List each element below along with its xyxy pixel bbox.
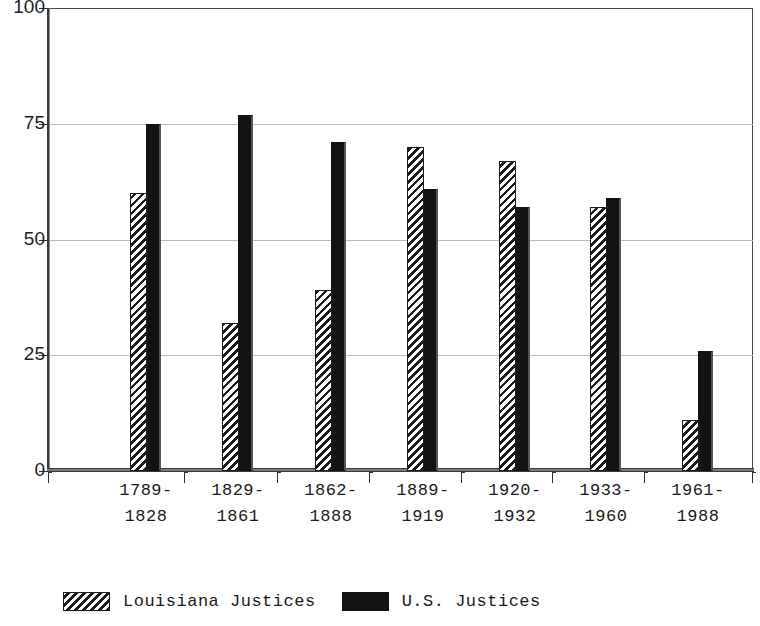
x-axis-tick [48,472,49,483]
x-axis-tick-label-line: 1888 [286,504,376,530]
chart-legend: Louisiana JusticesU.S. Justices [63,592,541,611]
x-axis-tick-label-line: 1889- [378,478,468,504]
hatch-swatch [63,592,110,611]
x-axis-tick-label: 1829-1861 [193,478,283,530]
x-axis-tick-label-line: 1862- [286,478,376,504]
bar-us-justices [331,142,346,471]
y-axis-tick-label: 50 [24,228,45,250]
bar-us-justices [423,189,438,471]
bar-louisiana-justices [315,290,332,471]
y-axis-tick-label: 100 [13,0,45,18]
x-axis-tick-label-line: 1919 [378,504,468,530]
bar-louisiana-justices [130,193,147,471]
bar-louisiana-justices [590,207,607,471]
x-axis-tick-label: 1789-1828 [101,478,191,530]
bar-us-justices [515,207,530,471]
solid-swatch [342,592,389,611]
x-axis-tick-label-line: 1932 [470,504,560,530]
x-axis-tick-label: 1862-1888 [286,478,376,530]
bar-louisiana-justices [407,147,424,471]
x-axis-tick-label-line: 1920- [470,478,560,504]
x-axis-tick-label: 1920-1932 [470,478,560,530]
legend-entry: U.S. Justices [342,592,541,611]
bar-louisiana-justices [682,420,699,471]
x-axis-tick-label: 1961-1988 [653,478,743,530]
x-axis-tick-label-line: 1861 [193,504,283,530]
y-axis-tick-label: 0 [34,459,45,481]
legend-label: U.S. Justices [402,592,541,611]
bar-chart: 0255075100 1789-18281829-18611862-188818… [0,0,760,626]
x-axis-tick-label-line: 1988 [653,504,743,530]
bar-louisiana-justices [222,323,239,471]
bar-louisiana-justices [499,161,516,471]
x-axis-tick-label-line: 1829- [193,478,283,504]
bar-us-justices [606,198,621,471]
x-axis-tick-label-line: 1960 [561,504,651,530]
x-axis-tick-label-line: 1961- [653,478,743,504]
x-axis-tick [752,472,753,483]
bar-us-justices [698,351,713,471]
x-axis-tick-label-line: 1828 [101,504,191,530]
legend-label: Louisiana Justices [123,592,316,611]
legend-entry: Louisiana Justices [63,592,316,611]
y-axis-tick-label: 75 [24,112,45,134]
x-axis-tick-label: 1933-1960 [561,478,651,530]
bar-us-justices [238,115,253,472]
bar-us-justices [146,124,161,471]
y-axis-tick-label: 25 [24,343,45,365]
x-axis-tick-label-line: 1789- [101,478,191,504]
x-axis-tick-label-line: 1933- [561,478,651,504]
x-axis-tick-label: 1889-1919 [378,478,468,530]
